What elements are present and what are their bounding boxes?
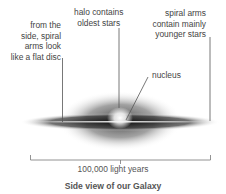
disc-label: from the side, spiral arms look like a f… [11,20,61,62]
disc-label-line: arms look [11,41,61,52]
diagram-caption: Side view of our Galaxy [0,181,226,191]
halo-label: halo contains oldest stars [74,7,123,28]
halo-label-line: halo contains [74,7,123,18]
scale-label: 100,000 light years [0,164,226,174]
spiral-label-line: contain mainly [152,19,206,30]
spiral-label-line: younger stars [152,29,206,40]
disc-label-line: from the [11,20,61,31]
spiral-label-line: spiral arms [152,8,206,19]
halo-label-line: oldest stars [74,18,123,29]
spiral-arms-label: spiral arms contain mainly younger stars [152,8,206,40]
disc-label-line: like a flat disc [11,52,61,63]
scale-bar [31,155,211,164]
disc-label-line: side, spiral [11,31,61,42]
nucleus-label: nucleus [152,70,181,81]
